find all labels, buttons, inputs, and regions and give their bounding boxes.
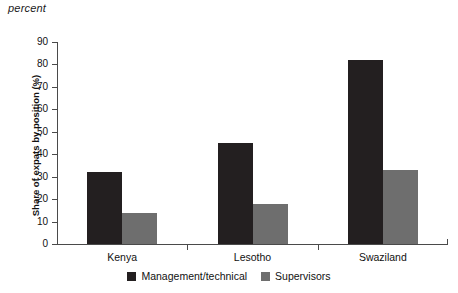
bar-swaziland-management-technical xyxy=(348,60,383,244)
x-axis-group-separator-tick xyxy=(318,245,319,250)
x-axis-group-separator-tick xyxy=(187,245,188,250)
y-axis-tick-label: 70 xyxy=(37,82,48,92)
y-axis-tick-label: 30 xyxy=(37,172,48,182)
x-axis-category-label: Lesotho xyxy=(234,251,271,263)
y-axis-tick-label: 90 xyxy=(37,37,48,47)
bar-lesotho-supervisors xyxy=(253,204,288,244)
bar-lesotho-management-technical xyxy=(218,143,253,244)
legend-item-management-technical[interactable]: Management/technical xyxy=(127,270,247,282)
legend-swatch-icon xyxy=(127,272,136,281)
bar-kenya-supervisors xyxy=(122,213,157,244)
bar-swaziland-supervisors xyxy=(383,170,418,244)
unit-label: percent xyxy=(8,2,46,14)
legend-label: Management/technical xyxy=(141,270,247,282)
plot-area xyxy=(57,38,448,244)
y-axis-tick-label: 50 xyxy=(37,127,48,137)
bar-kenya-management-technical xyxy=(87,172,122,244)
bar-chart: percent Share of expats by position (%) … xyxy=(0,0,458,293)
y-axis-tick-label: 10 xyxy=(37,217,48,227)
y-axis-tick-label: 60 xyxy=(37,104,48,114)
y-axis-tick-label: 0 xyxy=(42,239,48,249)
y-axis-tick-label: 80 xyxy=(37,59,48,69)
legend-swatch-icon xyxy=(261,272,270,281)
legend-item-supervisors[interactable]: Supervisors xyxy=(261,270,330,282)
chart-legend: Management/technicalSupervisors xyxy=(0,270,458,282)
legend-label: Supervisors xyxy=(275,270,330,282)
y-axis-tick-label: 40 xyxy=(37,149,48,159)
x-axis-category-label: Swaziland xyxy=(359,251,407,263)
y-axis-tick-label: 20 xyxy=(37,194,48,204)
x-axis-line xyxy=(57,244,448,245)
x-axis-category-label: Kenya xyxy=(107,251,137,263)
y-axis-tick xyxy=(52,244,57,245)
